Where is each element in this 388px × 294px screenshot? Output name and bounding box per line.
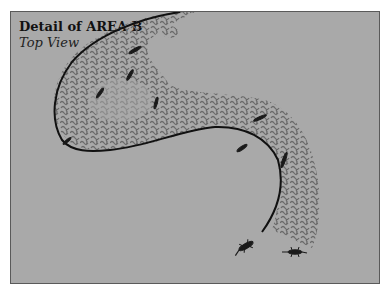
lizard-icon <box>231 238 255 258</box>
lizard-icon <box>236 143 248 153</box>
clearing-patch <box>88 78 152 122</box>
textured-terrain-band <box>54 12 320 248</box>
area-b-illustration <box>0 0 388 294</box>
lizard-icon <box>282 247 307 257</box>
shrub-patch <box>162 26 178 38</box>
